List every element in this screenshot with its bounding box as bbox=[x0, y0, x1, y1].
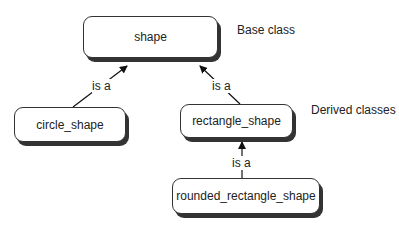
node-shape: shape bbox=[83, 16, 218, 58]
annotation-derived-classes: Derived classes bbox=[311, 103, 396, 117]
edge-label-rounded: is a bbox=[232, 156, 251, 170]
edge-label-circle: is a bbox=[92, 79, 111, 93]
node-label: rounded_rectangle_shape bbox=[176, 189, 315, 203]
class-hierarchy-diagram: shape circle_shape rectangle_shape round… bbox=[0, 0, 399, 229]
edge-label-rectangle: is a bbox=[212, 79, 231, 93]
node-label: circle_shape bbox=[36, 118, 103, 132]
node-label: rectangle_shape bbox=[192, 114, 281, 128]
node-rounded-rectangle-shape: rounded_rectangle_shape bbox=[172, 178, 320, 214]
node-label: shape bbox=[134, 30, 167, 44]
node-circle-shape: circle_shape bbox=[14, 107, 126, 142]
annotation-base-class: Base class bbox=[237, 23, 295, 37]
node-rectangle-shape: rectangle_shape bbox=[180, 104, 293, 138]
